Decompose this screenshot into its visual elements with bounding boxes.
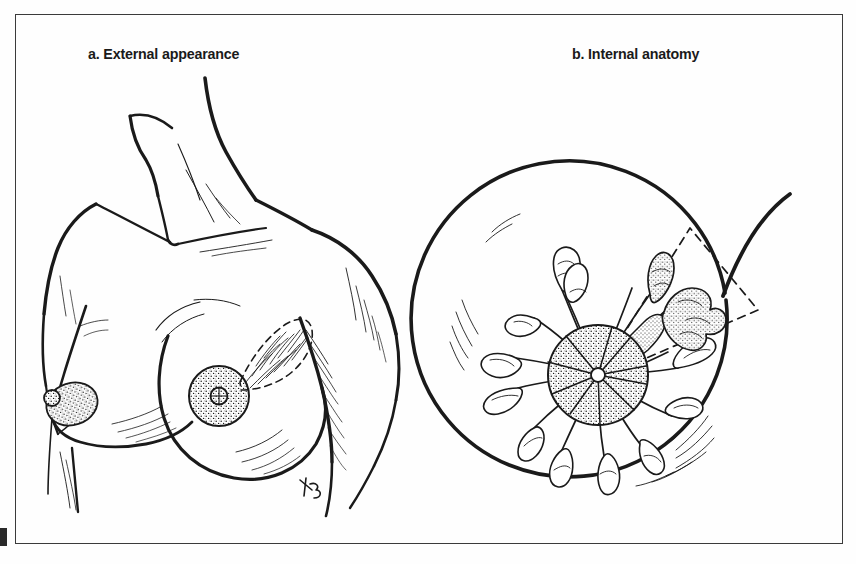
figure-border (15, 14, 843, 544)
figure-root: a. External appearance b. Internal anato… (0, 0, 856, 564)
panel-a-title: a. External appearance (88, 45, 239, 63)
scan-edge-artifact (0, 528, 7, 546)
panel-b-title: b. Internal anatomy (572, 45, 699, 63)
